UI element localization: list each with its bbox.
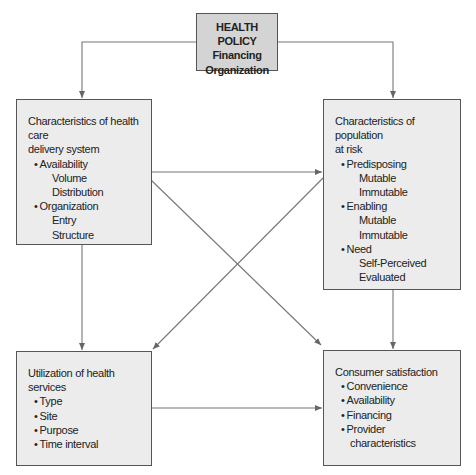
health-policy-title: HEALTH POLICY [197, 20, 277, 48]
list-item: Predisposing [335, 157, 460, 171]
list-item: Organization [28, 199, 151, 213]
delivery-system-title: Characteristics of health care [28, 114, 151, 142]
arrow-policy-to-population [278, 42, 393, 98]
satisfaction-title: Consumer satisfaction [335, 365, 460, 379]
satisfaction-list: Convenience Availability Financing Provi… [335, 379, 460, 450]
population-title: at risk [335, 142, 460, 156]
list-subitem: Immutable [335, 228, 460, 242]
delivery-system-box: Characteristics of health care delivery … [16, 99, 152, 245]
list-subitem: Structure [28, 228, 151, 242]
list-item: Convenience [335, 379, 460, 393]
arrow-delivery-to-satisfaction [151, 180, 321, 345]
list-item: Financing [335, 408, 460, 422]
list-item: Provider [335, 422, 460, 436]
utilization-title: services [28, 380, 151, 394]
list-item: Enabling [335, 199, 460, 213]
population-title: Characteristics of population [335, 114, 460, 142]
utilization-title: Utilization of health [28, 366, 151, 380]
population-box: Characteristics of population at risk Pr… [323, 99, 461, 290]
list-subitem: Self-Perceived [335, 256, 460, 270]
list-item: Type [28, 394, 151, 408]
list-item: Purpose [28, 423, 151, 437]
list-subitem: Mutable [335, 213, 460, 227]
health-policy-item: Financing [197, 48, 277, 62]
list-item: Availability [28, 157, 151, 171]
list-subitem: Immutable [335, 185, 460, 199]
list-item-continuation: characteristics [335, 436, 460, 450]
utilization-list: Type Site Purpose Time interval [28, 394, 151, 451]
list-subitem: Distribution [28, 185, 151, 199]
list-subitem: Evaluated [335, 270, 460, 284]
arrow-policy-to-delivery [82, 42, 196, 98]
list-item: Site [28, 409, 151, 423]
delivery-system-title: delivery system [28, 142, 151, 156]
satisfaction-box: Consumer satisfaction Convenience Availa… [323, 350, 461, 466]
health-policy-box: HEALTH POLICY Financing Organization [196, 13, 278, 71]
health-policy-item: Organization [197, 63, 277, 77]
list-item: Time interval [28, 437, 151, 451]
population-list: Predisposing Mutable Immutable Enabling … [335, 157, 460, 285]
list-subitem: Entry [28, 213, 151, 227]
list-subitem: Volume [28, 171, 151, 185]
list-item: Availability [335, 393, 460, 407]
utilization-box: Utilization of health services Type Site… [16, 351, 152, 466]
list-item: Need [335, 242, 460, 256]
list-subitem: Mutable [335, 171, 460, 185]
delivery-system-list: Availability Volume Distribution Organiz… [28, 157, 151, 242]
arrow-population-to-utilization [153, 178, 323, 349]
